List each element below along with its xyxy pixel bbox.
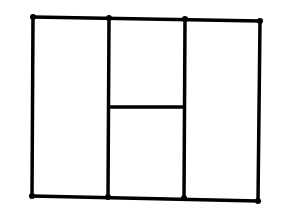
top-edge-line: [33, 17, 260, 21]
vertex-dot: [105, 194, 111, 200]
vertex-dot: [106, 15, 112, 21]
diagram-vertices: [29, 14, 263, 204]
grid-diagram: [0, 0, 284, 213]
left-edge-line: [32, 17, 33, 196]
vertex-dot: [182, 16, 188, 22]
vertex-dot: [255, 198, 261, 204]
right-edge-line: [258, 21, 260, 201]
vertex-dot: [181, 195, 187, 201]
bottom-edge-line: [32, 196, 258, 201]
vertex-dot: [257, 18, 263, 24]
vertex-dot: [29, 193, 35, 199]
vertex-dot: [30, 14, 36, 20]
diagram-lines: [32, 17, 260, 201]
